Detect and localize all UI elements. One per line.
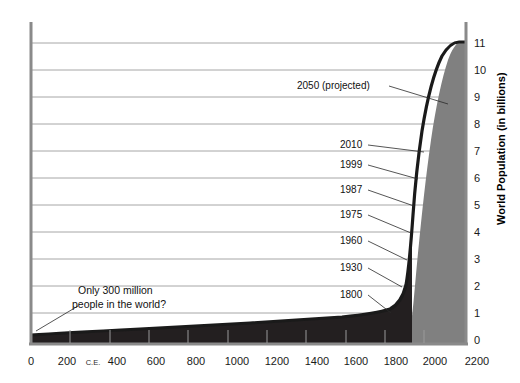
annotation-2050: 2050 (projected) xyxy=(297,80,370,91)
y-label-8: 8 xyxy=(474,118,480,130)
annotation-1999: 1999 xyxy=(340,159,363,170)
annotation-2010: 2010 xyxy=(340,139,363,150)
annotation-1930: 1930 xyxy=(340,262,363,273)
x-label-0: 0 xyxy=(28,355,34,367)
callout-line-1: Only 300 million xyxy=(78,284,153,296)
y-label-7: 7 xyxy=(474,145,480,157)
annotation-1800: 1800 xyxy=(340,289,363,300)
annotation-1975: 1975 xyxy=(340,209,363,220)
chart-canvas: 0 200 C.E. 400 600 800 1000 1200 1400 16… xyxy=(0,0,520,383)
y-label-3: 3 xyxy=(474,253,480,265)
y-label-2: 2 xyxy=(474,280,480,292)
y-label-11: 11 xyxy=(474,37,485,49)
x-label-600: 600 xyxy=(147,355,165,367)
y-axis-title: World Population (in billions) xyxy=(495,72,507,225)
y-label-9: 9 xyxy=(474,91,480,103)
x-label-1200: 1200 xyxy=(265,355,289,367)
callout-line-2: people in the world? xyxy=(72,298,166,310)
x-label-400: 400 xyxy=(108,355,126,367)
world-population-chart: 0 200 C.E. 400 600 800 1000 1200 1400 16… xyxy=(0,0,520,383)
y-label-5: 5 xyxy=(474,199,480,211)
x-label-1400: 1400 xyxy=(305,355,329,367)
annotation-1960: 1960 xyxy=(340,235,363,246)
x-label-200: 200 xyxy=(58,355,76,367)
x-label-1800: 1800 xyxy=(384,355,408,367)
y-label-4: 4 xyxy=(474,226,480,238)
x-label-2000: 2000 xyxy=(423,355,447,367)
x-label-1600: 1600 xyxy=(344,355,368,367)
y-label-1: 1 xyxy=(474,307,480,319)
x-label-1000: 1000 xyxy=(225,355,249,367)
y-label-10: 10 xyxy=(474,64,486,76)
x-label-era-suffix: C.E. xyxy=(86,358,101,367)
x-label-800: 800 xyxy=(187,355,205,367)
y-label-0: 0 xyxy=(474,334,480,346)
x-label-2200: 2200 xyxy=(465,355,489,367)
annotation-1987: 1987 xyxy=(340,184,363,195)
y-label-6: 6 xyxy=(474,172,480,184)
